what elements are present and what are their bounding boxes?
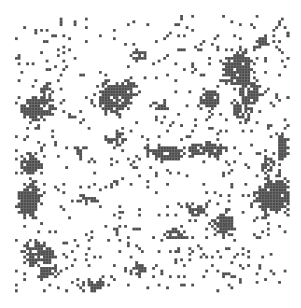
lattice-figure [0,0,301,308]
